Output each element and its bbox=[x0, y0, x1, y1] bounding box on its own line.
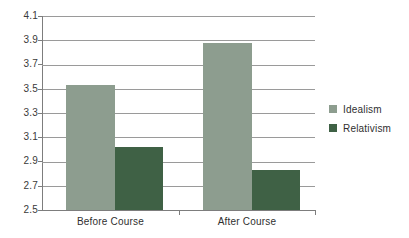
y-axis-tick-labels: 4.1 3.9 3.7 3.5 3.3 3.1 2.9 2.7 2.5 bbox=[0, 0, 38, 238]
y-tick-label: 3.5 bbox=[4, 84, 38, 94]
y-tickmark-3.9 bbox=[38, 40, 43, 41]
y-tickmark-3.1 bbox=[38, 137, 43, 138]
y-tick-label: 3.7 bbox=[4, 59, 38, 69]
bar-before-course-idealism bbox=[66, 85, 115, 210]
bar-before-course-relativism bbox=[115, 147, 163, 210]
gridline-3.9 bbox=[42, 40, 315, 41]
chart-legend: Idealism Relativism bbox=[329, 103, 409, 141]
x-axis-separator-mid bbox=[179, 210, 180, 215]
y-tick-label: 4.1 bbox=[4, 11, 38, 21]
y-tick-label: 3.1 bbox=[4, 132, 38, 142]
plot-area bbox=[42, 16, 315, 210]
y-tick-label: 2.5 bbox=[4, 205, 38, 215]
gridline-4.1 bbox=[42, 16, 315, 17]
legend-swatch-icon-relativism bbox=[329, 124, 337, 132]
legend-label-idealism: Idealism bbox=[343, 104, 382, 115]
y-tick-label: 2.7 bbox=[4, 181, 38, 191]
bar-after-course-idealism bbox=[203, 43, 252, 210]
bar-chart: 4.1 3.9 3.7 3.5 3.3 3.1 2.9 2.7 2.5 Befo… bbox=[0, 0, 409, 238]
y-tickmark-2.5 bbox=[38, 210, 43, 211]
y-tickmark-4.1 bbox=[38, 16, 43, 17]
y-tickmark-3.5 bbox=[38, 89, 43, 90]
y-tickmark-2.9 bbox=[38, 161, 43, 162]
y-tickmark-2.7 bbox=[38, 186, 43, 187]
y-tickmark-3.3 bbox=[38, 113, 43, 114]
x-tick-label-before-course: Before Course bbox=[42, 216, 179, 228]
y-tick-label: 3.9 bbox=[4, 35, 38, 45]
legend-item-idealism: Idealism bbox=[329, 103, 409, 115]
x-axis-separator-right bbox=[315, 210, 316, 215]
y-tick-label: 3.3 bbox=[4, 108, 38, 118]
bar-after-course-relativism bbox=[252, 170, 300, 210]
y-tickmark-3.7 bbox=[38, 64, 43, 65]
y-tick-label: 2.9 bbox=[4, 156, 38, 166]
legend-swatch-icon-idealism bbox=[329, 105, 337, 113]
x-tick-label-after-course: After Course bbox=[179, 216, 315, 228]
legend-item-relativism: Relativism bbox=[329, 122, 409, 134]
legend-label-relativism: Relativism bbox=[343, 123, 391, 134]
gridline-3.7 bbox=[42, 65, 315, 66]
